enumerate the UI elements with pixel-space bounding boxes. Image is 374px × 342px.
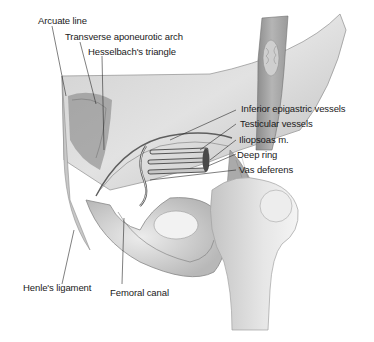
anatomy-figure: Arcuate line Transverse aponeurotic arch… [0, 0, 374, 342]
label-transverse-aponeurotic-arch: Transverse aponeurotic arch [65, 31, 183, 42]
label-hesselbachs-triangle: Hesselbach's triangle [88, 46, 176, 57]
label-deep-ring: Deep ring [237, 149, 277, 160]
pelvic-bone [86, 198, 225, 277]
label-iliopsoas: Iliopsoas m. [239, 134, 289, 145]
label-testicular-vessels: Testicular vessels [240, 118, 313, 129]
label-henles-ligament: Henle's ligament [23, 282, 91, 293]
label-vas-deferens: Vas deferens [239, 164, 293, 175]
label-inferior-epigastric-vessels: Inferior epigastric vessels [241, 103, 345, 114]
label-femoral-canal: Femoral canal [110, 287, 169, 298]
label-arcuate-line: Arcuate line [38, 15, 87, 26]
